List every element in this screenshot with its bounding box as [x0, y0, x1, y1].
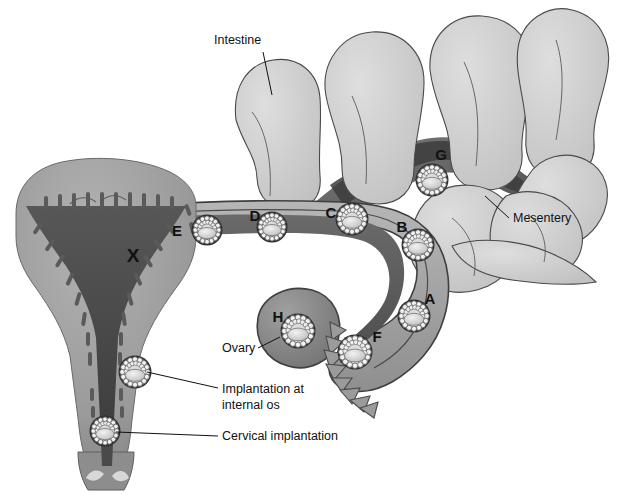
site-label-X: X — [127, 245, 140, 266]
blastocyst-D — [257, 212, 288, 243]
site-label-E: E — [172, 222, 182, 239]
callout-label-internal-os-line1: Implantation at — [222, 382, 305, 396]
site-label-F: F — [372, 328, 381, 345]
site-label-C: C — [326, 204, 337, 221]
cervical-blastocyst — [90, 416, 121, 447]
blastocyst-E — [192, 215, 223, 246]
site-label-H: H — [273, 308, 284, 325]
site-label-B: B — [397, 218, 408, 235]
site-label-G: G — [435, 146, 447, 163]
ectopic-implantation-diagram: Intestine Mesentery Ovary Implantation a… — [0, 0, 632, 504]
diagram-canvas: Intestine Mesentery Ovary Implantation a… — [0, 0, 632, 504]
callout-label-internal-os-line2: internal os — [222, 398, 280, 412]
callout-label-ovary: Ovary — [222, 341, 256, 355]
internal-os-blastocyst — [119, 356, 152, 389]
callout-label-cervical: Cervical implantation — [222, 429, 338, 443]
site-label-A: A — [425, 290, 436, 307]
blastocyst-G — [416, 164, 449, 197]
callout-label-mesentery: Mesentery — [513, 211, 572, 225]
site-label-D: D — [250, 207, 261, 224]
blastocyst-F — [338, 335, 373, 370]
callout-label-intestine: Intestine — [214, 33, 261, 47]
blastocyst-C — [336, 203, 369, 236]
blastocyst-H — [281, 314, 316, 349]
